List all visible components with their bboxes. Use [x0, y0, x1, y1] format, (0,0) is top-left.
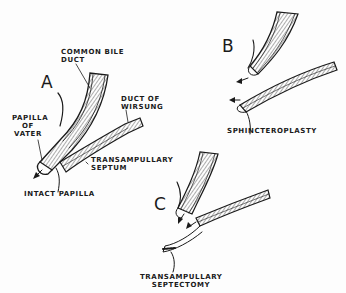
duct-diagram [0, 0, 346, 293]
label-intact-papilla: INTACT PAPILLA [24, 190, 95, 198]
panel-b-letter: B [222, 36, 234, 56]
label-common-bile-duct: COMMON BILE DUCT [61, 48, 124, 64]
panel-a-letter: A [41, 72, 53, 92]
label-sphincteroplasty: SPHINCTEROPLASTY [227, 127, 317, 135]
panel-c-letter: C [154, 194, 166, 214]
panel-c-drawing [163, 152, 270, 272]
label-duct-of-wirsung: DUCT OF WIRSUNG [121, 95, 163, 111]
panel-b-drawing [229, 12, 337, 134]
label-transampullary-septectomy: TRANSAMPULLARY SEPTECTOMY [140, 273, 222, 289]
figure: A B C COMMON BILE DUCT DUCT OF WIRSUNG P… [0, 0, 346, 293]
label-papilla-of-vater: PAPILLA OF VATER [12, 114, 44, 138]
label-transampullary-septum: TRANSAMPULLARY SEPTUM [91, 156, 174, 172]
